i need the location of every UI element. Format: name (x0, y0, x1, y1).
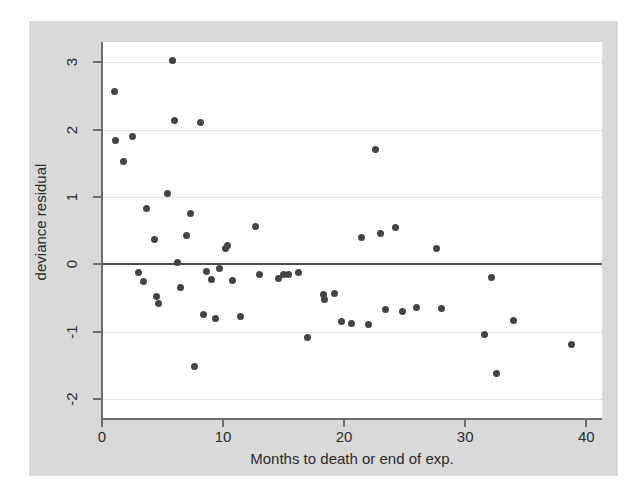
x-tick-mark-30 (464, 419, 466, 427)
y-tick-label-text: 2 (62, 110, 82, 150)
y-tick-label--2: -2 (52, 389, 92, 409)
data-point (392, 224, 399, 231)
gridline-y-1 (102, 197, 602, 198)
data-point (120, 158, 127, 165)
scatter-plot-figure: 3210-1-2 010203040 deviance residual Mon… (0, 0, 644, 497)
data-point (212, 315, 219, 322)
data-point (164, 190, 171, 197)
data-point (399, 308, 406, 315)
data-point (151, 236, 158, 243)
data-point (129, 133, 136, 140)
y-tick-label-text: 0 (62, 244, 82, 284)
data-point (140, 278, 147, 285)
gridline-y-2 (102, 130, 602, 131)
data-point (438, 305, 445, 312)
gridline-y--2 (102, 399, 602, 400)
data-point (358, 234, 365, 241)
y-tick-label-text: 1 (62, 177, 82, 217)
data-point (203, 268, 210, 275)
data-point (348, 320, 355, 327)
y-tick-mark--2 (93, 398, 102, 400)
y-tick-label-text: -2 (62, 379, 82, 419)
y-tick-label-0: 0 (52, 254, 92, 274)
x-axis-title: Months to death or end of exp. (102, 450, 602, 467)
data-point (169, 57, 176, 64)
data-point (183, 232, 190, 239)
x-tick-mark-40 (585, 419, 587, 427)
x-tick-label-10: 10 (198, 428, 248, 445)
data-point (216, 265, 223, 272)
y-tick-label-text: 3 (62, 42, 82, 82)
data-point (321, 296, 328, 303)
x-tick-mark-10 (222, 419, 224, 427)
data-point (111, 88, 118, 95)
x-tick-label-20: 20 (319, 428, 369, 445)
y-tick-mark--1 (93, 331, 102, 333)
y-tick-label-3: 3 (52, 52, 92, 72)
data-point (377, 230, 384, 237)
gridline-y--1 (102, 332, 602, 333)
data-point (191, 363, 198, 370)
x-tick-mark-0 (101, 419, 103, 427)
data-point (197, 119, 204, 126)
y-tick-mark-3 (93, 61, 102, 63)
y-axis-title: deviance residual (0, 212, 201, 232)
y-tick-label-text: -1 (62, 312, 82, 352)
gridline-y-3 (102, 62, 602, 63)
x-tick-label-30: 30 (440, 428, 490, 445)
x-axis-line (102, 418, 602, 420)
x-tick-label-40: 40 (561, 428, 611, 445)
data-point (177, 284, 184, 291)
data-point (481, 331, 488, 338)
data-point (208, 276, 215, 283)
y-tick-mark-1 (93, 196, 102, 198)
y-tick-label--1: -1 (52, 322, 92, 342)
data-point (433, 245, 440, 252)
data-point (174, 259, 181, 266)
y-tick-mark-2 (93, 129, 102, 131)
y-axis-title-text: deviance residual (31, 62, 51, 382)
data-point (112, 137, 119, 144)
data-point (295, 269, 302, 276)
data-point (171, 117, 178, 124)
data-point (237, 313, 244, 320)
x-tick-label-0: 0 (77, 428, 127, 445)
y-tick-label-1: 1 (52, 187, 92, 207)
data-point (153, 293, 160, 300)
y-tick-mark-0 (93, 263, 102, 265)
x-tick-mark-20 (343, 419, 345, 427)
y-tick-label-2: 2 (52, 120, 92, 140)
